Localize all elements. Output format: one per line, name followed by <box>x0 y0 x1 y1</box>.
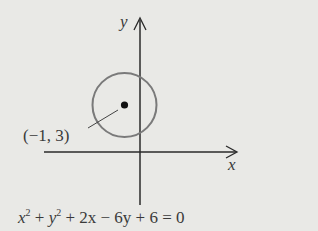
eq-x: x <box>18 208 26 227</box>
diagram-canvas <box>0 0 318 231</box>
equation: x2 + y2 + 2x − 6y + 6 = 0 <box>18 207 185 228</box>
eq-rest: + 2x − 6y + 6 = 0 <box>61 208 184 227</box>
center-label: (−1, 3) <box>23 126 69 146</box>
x-axis-label: x <box>228 155 236 175</box>
y-axis-label: y <box>120 12 128 32</box>
center-point <box>121 101 128 108</box>
eq-plus: + <box>31 208 49 227</box>
